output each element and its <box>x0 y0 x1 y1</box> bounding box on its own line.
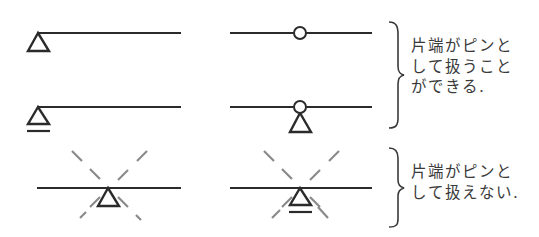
brace-icon <box>389 148 404 227</box>
roller-support-icon <box>28 107 49 124</box>
hinge-icon <box>294 27 306 39</box>
row2-left-beam-roller <box>27 107 181 131</box>
roller-support-icon <box>290 188 311 205</box>
row2-right-beam-hinge-pin <box>230 101 372 132</box>
row1-left-beam-pin <box>28 33 181 51</box>
row3-left-beam-pin-crossed <box>37 151 181 220</box>
pin-support-icon <box>290 113 311 132</box>
note-line: して扱えない. <box>411 183 519 204</box>
note-cannot-treat-as-pin: 片端がピンと して扱えない. <box>411 162 519 203</box>
hinge-icon <box>294 101 306 113</box>
note-line: 片端がピンと <box>411 162 519 183</box>
note-can-treat-as-pin: 片端がピンと して扱うこと ができる. <box>411 36 513 98</box>
note-line: して扱うこと <box>411 57 513 78</box>
brace-icon <box>389 22 404 128</box>
pin-support-icon <box>98 188 119 206</box>
row1-right-beam-hinge <box>230 27 372 39</box>
cross-out-icon <box>72 151 147 220</box>
note-line: 片端がピンと <box>411 36 513 57</box>
pin-support-icon <box>28 33 49 51</box>
row3-right-beam-roller-crossed <box>230 151 372 218</box>
cross-out-icon <box>264 151 339 218</box>
note-line: ができる. <box>411 77 513 98</box>
